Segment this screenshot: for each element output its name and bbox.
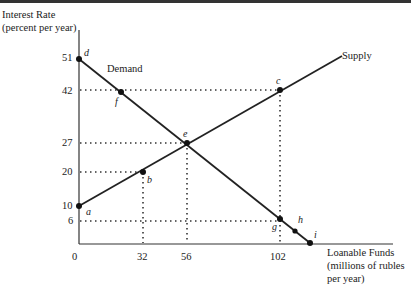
point-label-g: g bbox=[272, 221, 277, 232]
x-tick-102: 102 bbox=[270, 251, 286, 262]
point-label-a: a bbox=[86, 206, 91, 217]
supply-label: Supply bbox=[342, 50, 372, 61]
y-tick-20: 20 bbox=[62, 166, 73, 177]
point-label-f: f bbox=[115, 96, 118, 107]
y-tick-6: 6 bbox=[68, 215, 73, 226]
x-label-line-3: per year) bbox=[327, 272, 405, 285]
point-label-c: c bbox=[276, 75, 280, 86]
x-label-line-1: Loanable Funds bbox=[327, 246, 405, 259]
demand-label: Demand bbox=[107, 63, 143, 74]
point-label-b: b bbox=[147, 174, 152, 185]
y-tick-27: 27 bbox=[62, 137, 73, 148]
y-tick-42: 42 bbox=[62, 85, 73, 96]
y-tick-10: 10 bbox=[62, 200, 73, 211]
point-label-e: e bbox=[183, 128, 187, 139]
x-label-line-2: (millions of rubles bbox=[327, 259, 405, 272]
point-label-i: i bbox=[314, 229, 317, 240]
x-axis-label: Loanable Funds (millions of rubles per y… bbox=[327, 246, 405, 285]
origin-label: 0 bbox=[72, 251, 77, 262]
y-tick-51: 51 bbox=[62, 52, 73, 63]
x-tick-32: 32 bbox=[137, 251, 148, 262]
x-tick-56: 56 bbox=[181, 251, 192, 262]
point-label-h: h bbox=[298, 214, 303, 225]
point-label-d: d bbox=[84, 47, 89, 58]
